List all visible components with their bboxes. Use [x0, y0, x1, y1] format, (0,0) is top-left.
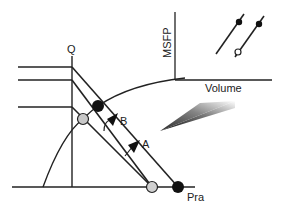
slope-line-outer	[72, 67, 178, 187]
arrow-b	[104, 113, 118, 131]
inset-ylabel: MSFP	[161, 27, 173, 58]
diagram-canvas: B A Q Pra MSF	[0, 0, 286, 213]
operating-point-filled	[92, 100, 104, 112]
inset-point-right-open	[235, 49, 241, 55]
pra-point-grey	[147, 182, 158, 193]
inset-xlabel: Volume	[205, 82, 242, 94]
venous-return-slopes	[72, 67, 178, 187]
arrow-a-head	[128, 140, 140, 153]
label-q: Q	[67, 43, 76, 55]
inset-point-left-filled	[236, 19, 242, 25]
arrow-b-head	[107, 113, 118, 126]
inset-point-right-filled	[256, 21, 262, 27]
label-pra: Pra	[187, 191, 205, 203]
arrow-a	[125, 140, 140, 156]
pra-point-filled	[172, 181, 184, 193]
inset-plot: MSFP Volume	[161, 12, 272, 94]
zoom-wedge-body	[160, 101, 235, 131]
venous-return-plateaus	[18, 67, 72, 107]
label-b: B	[120, 115, 127, 127]
slope-line-middle	[72, 80, 152, 187]
label-a: A	[142, 138, 150, 150]
operating-point-grey	[78, 114, 89, 125]
